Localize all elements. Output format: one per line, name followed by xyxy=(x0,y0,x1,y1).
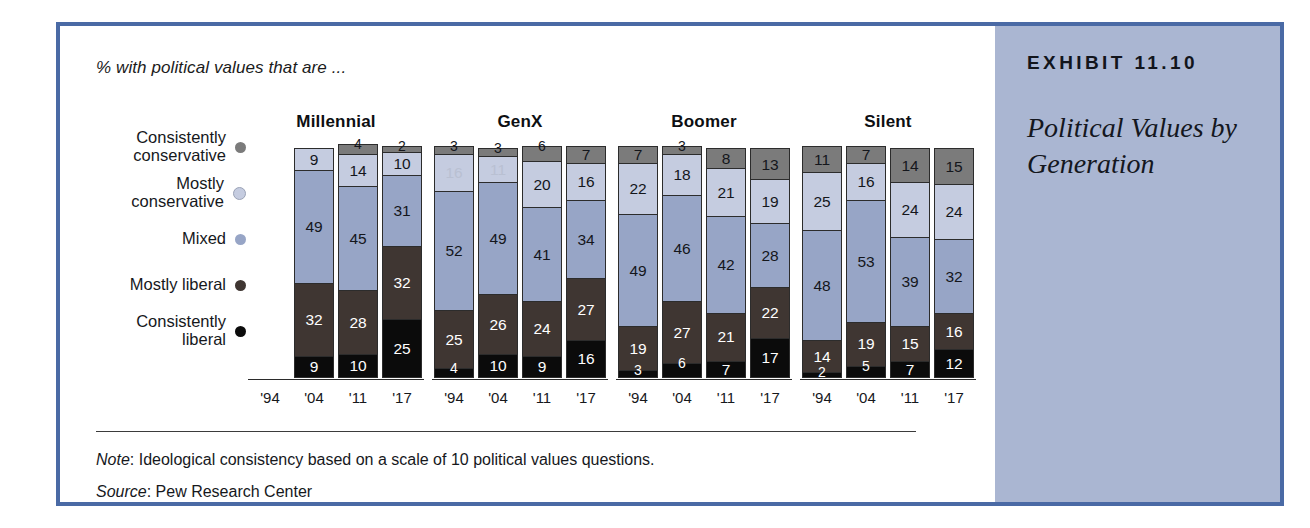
source-text: : Pew Research Center xyxy=(147,483,312,500)
legend-item: Mixed xyxy=(60,222,246,256)
legend-item: Mostly conservative xyxy=(60,176,246,210)
bar-segment-value: 6 xyxy=(678,356,686,370)
bar-segment-value: 3 xyxy=(450,139,458,153)
bar-segment: 3 xyxy=(435,147,473,154)
bar-segment-value: 21 xyxy=(717,329,734,345)
bar-segment-value: 18 xyxy=(673,167,690,183)
legend-item-label: Consistently liberal xyxy=(136,313,226,349)
bar-segment: 42 xyxy=(707,216,745,313)
bar-segment: 19 xyxy=(751,179,789,223)
bar-segment: 16 xyxy=(567,163,605,200)
bar-segment-value: 22 xyxy=(629,181,646,197)
bar-segment: 48 xyxy=(803,230,841,340)
stacked-bar[interactable]: 72249193 xyxy=(618,146,658,378)
bar-slot: 62041249 xyxy=(520,146,564,378)
bar-segment: 34 xyxy=(567,200,605,278)
axis-tick-label: '04 xyxy=(660,389,704,406)
bar-segment-value: 9 xyxy=(310,359,319,375)
stacked-bar[interactable]: 82142217 xyxy=(706,148,746,378)
bar-segment-value: 41 xyxy=(533,247,550,263)
bar-segment-value: 24 xyxy=(945,204,962,220)
legend-swatch-icon xyxy=(235,280,246,291)
bar-segment: 13 xyxy=(751,149,789,179)
bar-segment: 5 xyxy=(847,366,885,378)
stacked-bar[interactable]: 311492610 xyxy=(478,148,518,378)
axis-tick-labels: '94'04'11'17 xyxy=(248,389,424,406)
stacked-bar[interactable]: 1524321612 xyxy=(934,148,974,378)
legend-item: Consistently liberal xyxy=(60,314,246,348)
bar-segment: 31 xyxy=(383,175,421,246)
bar-slot: 112548142 xyxy=(800,146,844,378)
stacked-bar[interactable]: 31846276 xyxy=(662,146,702,378)
bar-segment-value: 2 xyxy=(818,365,826,379)
bar-segment: 4 xyxy=(435,368,473,377)
bar-segment: 32 xyxy=(383,246,421,320)
generation-group-title: Boomer xyxy=(616,112,792,132)
stacked-bar[interactable]: 1319282217 xyxy=(750,148,790,378)
bar-segment-value: 32 xyxy=(945,269,962,285)
axis-line xyxy=(616,379,792,380)
bar-segment: 11 xyxy=(479,156,517,181)
legend-swatch-icon xyxy=(233,187,246,200)
bar-slot: 71653195 xyxy=(844,146,888,378)
axis-tick-label: '17 xyxy=(380,389,424,406)
bar-segment-value: 24 xyxy=(533,321,550,337)
stacked-bar[interactable]: 210313225 xyxy=(382,146,422,378)
bar-segment-value: 14 xyxy=(901,158,918,174)
bar-segment: 7 xyxy=(707,361,745,377)
axis-tick-labels: '94'04'11'17 xyxy=(800,389,976,406)
bar-segment: 16 xyxy=(567,340,605,377)
bar-segment: 27 xyxy=(663,301,701,363)
exhibit-number: EXHIBIT 11.10 xyxy=(1027,52,1280,74)
bar-segment-value: 10 xyxy=(489,358,506,374)
axis-tick-label: '94 xyxy=(248,389,292,406)
bar-segment-value: 17 xyxy=(761,350,778,366)
source-label: Source xyxy=(96,483,147,500)
stacked-bar[interactable]: 71653195 xyxy=(846,146,886,378)
bar-segment-value: 25 xyxy=(393,341,410,357)
bar-segment: 7 xyxy=(567,147,605,163)
stacked-bar[interactable]: 949329 xyxy=(294,148,334,378)
bar-segment: 24 xyxy=(523,301,561,356)
chart-legend: Consistently conservativeMostly conserva… xyxy=(60,130,246,360)
bar-segment-value: 8 xyxy=(722,151,731,167)
bar-row: 7224919331846276821422171319282217 xyxy=(616,146,792,378)
bar-segment: 15 xyxy=(891,326,929,360)
bar-segment-value: 32 xyxy=(305,312,322,328)
bar-segment-value: 52 xyxy=(445,243,462,259)
bar-segment-value: 39 xyxy=(901,274,918,290)
generation-group: Millennial949329414452810210313225'94'04… xyxy=(248,112,424,412)
stacked-bar[interactable]: 112548142 xyxy=(802,146,842,378)
legend-item-label: Mostly liberal xyxy=(130,276,226,294)
bar-segment: 25 xyxy=(803,172,841,230)
bar-segment: 32 xyxy=(935,239,973,313)
stacked-bar[interactable]: 414452810 xyxy=(338,144,378,378)
stacked-bar[interactable]: 716342716 xyxy=(566,146,606,378)
axis-tick-label: '04 xyxy=(292,389,336,406)
bar-segment: 3 xyxy=(479,149,517,156)
bar-segment: 9 xyxy=(523,356,561,377)
axis-line xyxy=(248,379,424,380)
bar-segment: 45 xyxy=(339,186,377,290)
bar-segment-value: 16 xyxy=(577,351,594,367)
legend-item: Consistently conservative xyxy=(60,130,246,164)
bar-segment: 39 xyxy=(891,237,929,327)
bar-segment-value: 49 xyxy=(489,231,506,247)
stacked-bar[interactable]: 142439157 xyxy=(890,148,930,378)
bar-segment: 9 xyxy=(295,149,333,170)
stacked-bar[interactable]: 31652254 xyxy=(434,146,474,378)
bar-segment-value: 16 xyxy=(445,165,462,181)
bar-slot: 82142217 xyxy=(704,146,748,378)
bar-segment: 8 xyxy=(707,149,745,167)
stacked-bar[interactable]: 62041249 xyxy=(522,146,562,378)
bar-segment: 11 xyxy=(803,147,841,172)
bar-segment-value: 19 xyxy=(761,194,778,210)
axis-tick-labels: '94'04'11'17 xyxy=(616,389,792,406)
bar-segment-value: 4 xyxy=(450,361,458,375)
legend-item-label: Mixed xyxy=(182,230,226,248)
chart-caption: % with political values that are ... xyxy=(96,58,346,78)
generation-group: GenX3165225431149261062041249716342716'9… xyxy=(432,112,608,412)
axis-line xyxy=(432,379,608,380)
bar-segment-value: 16 xyxy=(945,324,962,340)
bar-segment-value: 12 xyxy=(945,356,962,372)
